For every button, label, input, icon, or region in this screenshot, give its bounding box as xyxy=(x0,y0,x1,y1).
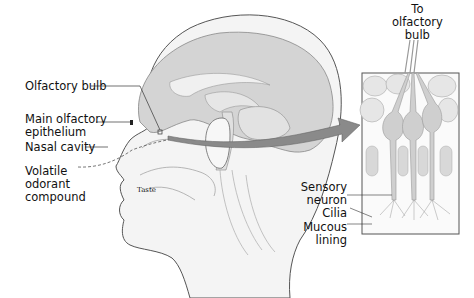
label-to-olfactory-bulb: To olfactory bulb xyxy=(392,3,443,42)
label-cilia: Cilia xyxy=(295,207,347,220)
label-volatile-odorant-compound: Volatile odorant compound xyxy=(25,165,86,204)
label-main-olfactory-epithelium: Main olfactory epithelium xyxy=(25,113,107,139)
epithelium-marker xyxy=(130,120,133,125)
axon-bundle xyxy=(405,40,418,73)
label-nasal-cavity: Nasal cavity xyxy=(25,141,95,154)
label-olfactory-bulb: Olfactory bulb xyxy=(25,80,106,93)
label-mucous-lining: Mucous lining xyxy=(295,221,347,247)
label-taste: Taste xyxy=(137,184,156,197)
label-sensory-neuron: Sensory neuron xyxy=(295,181,347,207)
